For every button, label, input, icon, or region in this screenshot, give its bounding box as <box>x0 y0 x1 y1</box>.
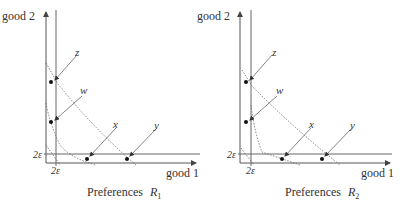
point-x <box>85 157 89 161</box>
pointer-x <box>285 128 311 156</box>
epsilon-y-label: 2ε <box>33 149 42 160</box>
pointer-z <box>55 55 77 80</box>
panel-preferences-r2: good 2 good 1 2ε 2ε z w x y Preferences … <box>197 9 394 201</box>
pointer-y <box>325 128 352 156</box>
panel-caption: Preferences R2 <box>285 185 359 201</box>
panel-caption: Preferences R1 <box>87 185 161 201</box>
indifference-curve-high <box>46 63 136 165</box>
point-z <box>244 80 248 84</box>
indifference-curve-low <box>46 145 60 165</box>
indifference-curve-high <box>242 70 340 165</box>
point-y <box>320 157 324 161</box>
pointer-x <box>90 128 116 156</box>
label-x: x <box>112 118 118 130</box>
diagram-canvas: good 2 good 1 2ε 2ε z w x y Preferences … <box>0 0 407 209</box>
caption-text: Preferences <box>285 185 341 199</box>
label-w: w <box>80 84 88 96</box>
epsilon-x-label: 2ε <box>246 165 255 176</box>
point-w <box>49 120 53 124</box>
epsilon-x-label: 2ε <box>51 165 60 176</box>
label-z: z <box>271 46 277 58</box>
x-axis-label: good 1 <box>361 166 394 180</box>
pointer-w <box>250 96 277 120</box>
point-w <box>244 120 248 124</box>
caption-text: Preferences <box>87 185 143 199</box>
indifference-curve-low <box>241 148 254 165</box>
label-w: w <box>276 84 284 96</box>
label-y: y <box>153 119 159 131</box>
x-axis-label: good 1 <box>166 166 199 180</box>
caption-sub: 2 <box>355 192 359 201</box>
label-x: x <box>308 118 314 130</box>
panel-preferences-r1: good 2 good 1 2ε 2ε z w x y Preferences … <box>2 9 200 201</box>
label-z: z <box>74 46 80 58</box>
point-x <box>280 157 284 161</box>
pointer-y <box>130 128 157 156</box>
label-y: y <box>349 119 355 131</box>
indifference-curve-mid <box>251 105 300 165</box>
y-axis-label: good 2 <box>197 9 230 23</box>
pointer-z <box>250 55 272 80</box>
caption-sub: 1 <box>157 192 161 201</box>
y-axis-label: good 2 <box>2 9 35 23</box>
point-z <box>49 80 53 84</box>
epsilon-y-label: 2ε <box>227 149 236 160</box>
point-y <box>125 157 129 161</box>
